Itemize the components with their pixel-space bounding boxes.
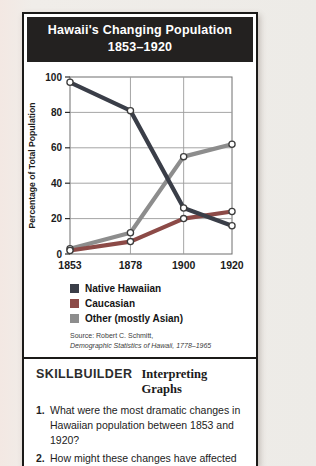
data-point: [229, 141, 235, 147]
infographic-card: Hawaii's Changing Population 1853–1920 0…: [22, 12, 258, 466]
legend-item: Native Hawaiian: [70, 283, 256, 294]
legend-swatch: [70, 284, 79, 293]
question-number: 1.: [36, 403, 50, 448]
question-text: What were the most dramatic changes in H…: [50, 403, 244, 448]
data-point: [181, 154, 187, 160]
data-point: [181, 205, 187, 211]
y-tick-label: 80: [51, 107, 63, 118]
source-citation: Source: Robert C. Schmitt, Demographic S…: [70, 331, 256, 351]
skillbuilder-section: SKILLBUILDER Interpreting Graphs 1.What …: [24, 359, 256, 466]
data-point: [127, 108, 133, 114]
chart-section: 0204060801001853187819001920Percentage o…: [24, 65, 256, 359]
chart-title-bar: Hawaii's Changing Population 1853–1920: [27, 17, 253, 62]
x-tick-label: 1853: [58, 259, 82, 271]
data-point: [67, 247, 73, 253]
skillbuilder-heading-main: SKILLBUILDER: [36, 367, 132, 381]
legend-label: Caucasian: [85, 298, 135, 309]
data-point: [127, 239, 133, 245]
skillbuilder-heading-sub: Interpreting Graphs: [141, 367, 244, 397]
legend-item: Caucasian: [70, 298, 256, 309]
source-line2: Demographic Statistics of Hawaii, 1778–1…: [70, 341, 256, 351]
x-tick-label: 1900: [172, 259, 196, 271]
legend-label: Native Hawaiian: [85, 283, 161, 294]
source-line1: Source: Robert C. Schmitt,: [70, 331, 256, 341]
y-tick-label: 60: [51, 142, 63, 153]
y-tick-label: 100: [45, 72, 62, 83]
plot-area: [70, 77, 232, 254]
legend-item: Other (mostly Asian): [70, 313, 256, 324]
skillbuilder-heading: SKILLBUILDER Interpreting Graphs: [36, 367, 244, 397]
y-tick-label: 0: [56, 249, 62, 260]
question-item: 2.How might these changes have affected: [36, 451, 244, 466]
data-point: [67, 79, 73, 85]
question-item: 1.What were the most dramatic changes in…: [36, 403, 244, 448]
population-chart: 0204060801001853187819001920Percentage o…: [24, 69, 256, 275]
chart-legend: Native HawaiianCaucasianOther (mostly As…: [70, 283, 256, 324]
legend-swatch: [70, 299, 79, 308]
y-tick-label: 20: [51, 213, 63, 224]
data-point: [181, 216, 187, 222]
chart-title-line1: Hawaii's Changing Population: [29, 22, 251, 39]
legend-swatch: [70, 314, 79, 323]
data-point: [127, 230, 133, 236]
legend-label: Other (mostly Asian): [85, 313, 183, 324]
y-axis-title: Percentage of Total Population: [27, 103, 37, 229]
x-tick-label: 1878: [119, 259, 143, 271]
x-tick-label: 1920: [220, 259, 244, 271]
chart-title-line2: 1853–1920: [29, 39, 251, 56]
data-point: [229, 208, 235, 214]
question-number: 2.: [36, 451, 50, 466]
question-text: How might these changes have affected: [50, 451, 237, 466]
y-tick-label: 40: [51, 178, 63, 189]
skillbuilder-questions: 1.What were the most dramatic changes in…: [36, 403, 244, 466]
data-point: [229, 223, 235, 229]
